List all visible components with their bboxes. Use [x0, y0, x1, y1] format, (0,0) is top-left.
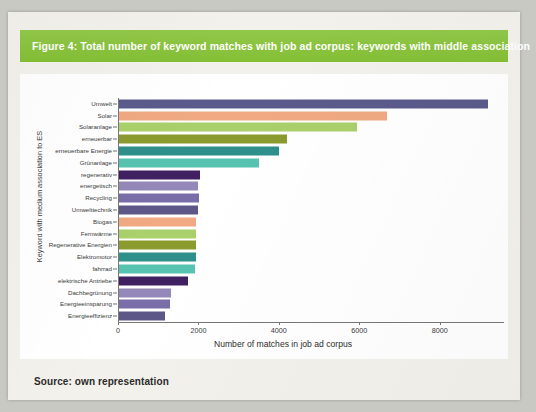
bar: [118, 147, 279, 156]
y-axis-tick-label: Energieeffizienz: [68, 312, 112, 320]
y-axis-line: [118, 98, 119, 322]
x-axis-tick-mark: [440, 322, 441, 325]
x-axis-label: Number of matches in job ad corpus: [118, 339, 448, 349]
y-axis-tick-label: Umwelt: [91, 100, 112, 108]
x-axis-tick-label: 2000: [190, 326, 206, 335]
bar: [118, 264, 195, 273]
y-axis-tick-mark: [113, 233, 117, 234]
bar: [118, 288, 171, 297]
bar: [118, 194, 199, 203]
y-axis-tick-mark: [113, 127, 117, 128]
x-axis-tick-mark: [198, 322, 199, 325]
y-axis-tick-mark: [113, 139, 117, 140]
y-axis-tick-mark: [113, 268, 117, 269]
source-note: Source: own representation: [34, 376, 169, 387]
bar: [118, 111, 387, 120]
y-axis-tick-label: Elektromotor: [77, 253, 112, 261]
y-axis-tick-labels: UmweltSolarSolaranlageerneuerbarerneuerb…: [20, 98, 118, 322]
y-axis-tick-label: Solaranlage: [79, 123, 112, 131]
y-axis-tick-label: fahrrad: [92, 265, 112, 273]
bar: [118, 300, 170, 309]
x-axis-tick-label: 6000: [351, 326, 367, 335]
bar: [118, 99, 488, 108]
y-axis-tick-label: Fernwärme: [81, 230, 112, 238]
y-axis-tick-mark: [113, 186, 117, 187]
figure-title: Figure 4: Total number of keyword matche…: [20, 40, 530, 52]
y-axis-tick-mark: [113, 198, 117, 199]
bar: [118, 241, 196, 250]
y-axis-tick-mark: [113, 151, 117, 152]
y-axis-tick-mark: [113, 280, 117, 281]
x-axis-tick-mark: [118, 322, 119, 325]
bar: [118, 135, 287, 144]
figure-title-banner: Figure 4: Total number of keyword matche…: [20, 30, 508, 62]
y-axis-tick-label: regenerativ: [81, 171, 112, 179]
y-axis-tick-label: Biogas: [93, 218, 112, 226]
bar: [118, 276, 188, 285]
x-axis-tick-mark: [279, 322, 280, 325]
y-axis-tick-label: Umwelttechnik: [72, 206, 112, 214]
y-axis-tick-mark: [113, 162, 117, 163]
bar: [118, 182, 198, 191]
chart-canvas: Keyword with medium association to ES Um…: [20, 74, 508, 359]
x-axis-tick-mark: [359, 322, 360, 325]
y-axis-tick-label: erneuerbare Energie: [55, 147, 112, 155]
y-axis-tick-mark: [113, 304, 117, 305]
y-axis-tick-label: Regenerative Energien: [49, 241, 112, 249]
y-axis-tick-label: erneuerbar: [82, 135, 112, 143]
y-axis-tick-mark: [113, 292, 117, 293]
y-axis-tick-label: Recycling: [85, 194, 112, 202]
bar-series: [118, 98, 504, 322]
y-axis-tick-mark: [113, 245, 117, 246]
bar: [118, 229, 196, 238]
y-axis-tick-label: energetisch: [80, 182, 112, 190]
y-axis-tick-label: Solar: [98, 112, 112, 120]
bar: [118, 158, 259, 167]
bar: [118, 170, 200, 179]
scanned-page: Figure 4: Total number of keyword matche…: [0, 0, 536, 412]
y-axis-tick-mark: [113, 257, 117, 258]
y-axis-tick-mark: [113, 210, 117, 211]
y-axis-tick-label: Grünanlage: [80, 159, 112, 167]
y-axis-tick-mark: [113, 316, 117, 317]
x-axis-tick-label: 0: [116, 326, 120, 335]
y-axis-tick-label: Dachbegrünung: [68, 289, 112, 297]
bar: [118, 217, 196, 226]
figure-sheet: Figure 4: Total number of keyword matche…: [8, 12, 520, 400]
bar: [118, 312, 165, 321]
y-axis-tick-label: Energieeinsparung: [60, 300, 112, 308]
bar: [118, 206, 198, 215]
x-axis-tick-label: 4000: [271, 326, 287, 335]
bar: [118, 253, 196, 262]
x-axis-tick-label: 8000: [432, 326, 448, 335]
y-axis-tick-mark: [113, 115, 117, 116]
y-axis-tick-mark: [113, 174, 117, 175]
y-axis-tick-mark: [113, 103, 117, 104]
plot-area: Keyword with medium association to ES Um…: [20, 74, 508, 359]
x-axis-line: [118, 322, 504, 323]
y-axis-tick-label: elektrische Antriebe: [58, 277, 112, 285]
y-axis-tick-mark: [113, 221, 117, 222]
bar: [118, 123, 357, 132]
